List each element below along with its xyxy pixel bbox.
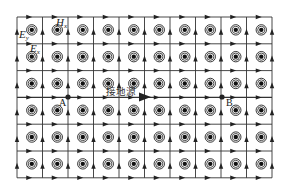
out-of-page-dot-icon xyxy=(205,159,215,169)
out-of-page-dot-icon xyxy=(154,25,164,35)
arrow-up-icon xyxy=(219,56,223,62)
arrow-up-icon xyxy=(168,29,172,35)
arrow-right-icon xyxy=(77,15,83,19)
out-of-page-dot-icon xyxy=(103,51,113,61)
arrow-up-icon xyxy=(244,82,248,88)
arrow-up-icon xyxy=(193,109,197,115)
out-of-page-dot-icon xyxy=(129,51,139,61)
out-of-page-dot-icon xyxy=(154,105,164,115)
out-of-page-dot-icon xyxy=(52,51,62,61)
out-of-page-dot-icon xyxy=(180,132,190,142)
out-of-page-dot-icon xyxy=(78,51,88,61)
arrow-up-icon xyxy=(15,136,19,142)
out-of-page-dot-icon xyxy=(205,78,215,88)
arrow-up-icon xyxy=(91,29,95,35)
arrow-right-icon xyxy=(26,15,32,19)
arrow-up-icon xyxy=(91,56,95,62)
out-of-page-dot-icon xyxy=(27,105,37,115)
out-of-page-dot-icon xyxy=(78,25,88,35)
arrow-right-icon xyxy=(128,149,134,153)
out-of-page-dot-icon xyxy=(154,78,164,88)
arrow-right-icon xyxy=(26,122,32,126)
arrow-up-icon xyxy=(40,109,44,115)
arrow-up-icon xyxy=(219,82,223,88)
out-of-page-dot-icon xyxy=(103,105,113,115)
arrow-right-icon xyxy=(77,149,83,153)
arrow-right-icon xyxy=(256,15,262,19)
arrow-up-icon xyxy=(142,82,146,88)
arrow-right-icon xyxy=(128,42,134,46)
arrow-up-icon xyxy=(117,136,121,142)
arrow-up-icon xyxy=(270,109,274,115)
arrow-right-icon xyxy=(230,68,236,72)
arrow-right-icon xyxy=(103,15,109,19)
label-point-b: B xyxy=(226,97,233,108)
arrow-up-icon xyxy=(219,163,223,169)
arrow-up-icon xyxy=(270,56,274,62)
arrow-up-icon xyxy=(193,163,197,169)
arrow-right-icon xyxy=(179,15,185,19)
arrow-right-icon xyxy=(205,42,211,46)
arrow-up-icon xyxy=(15,163,19,169)
arrow-up-icon xyxy=(270,136,274,142)
arrow-up-icon xyxy=(244,163,248,169)
out-of-page-dot-icon xyxy=(129,25,139,35)
out-of-page-dot-icon xyxy=(129,132,139,142)
arrow-right-icon xyxy=(230,122,236,126)
arrow-right-icon xyxy=(205,95,211,99)
out-of-page-dot-icon xyxy=(27,159,37,169)
arrow-right-icon xyxy=(77,68,83,72)
arrow-right-icon xyxy=(256,149,262,153)
arrow-right-icon xyxy=(256,176,262,180)
arrow-right-icon xyxy=(154,122,160,126)
out-of-page-dot-icon xyxy=(154,159,164,169)
arrow-right-icon xyxy=(77,42,83,46)
arrow-right-icon xyxy=(179,95,185,99)
out-of-page-dot-icon xyxy=(129,105,139,115)
arrow-up-icon xyxy=(15,109,19,115)
arrow-right-icon xyxy=(205,68,211,72)
arrow-right-icon xyxy=(52,42,58,46)
out-of-page-dot-icon xyxy=(205,51,215,61)
arrow-right-icon xyxy=(179,42,185,46)
arrow-up-icon xyxy=(66,163,70,169)
arrow-right-icon xyxy=(179,149,185,153)
arrow-up-icon xyxy=(91,109,95,115)
out-of-page-dot-icon xyxy=(256,78,266,88)
out-of-page-dot-icon xyxy=(231,25,241,35)
arrow-up-icon xyxy=(40,82,44,88)
out-of-page-dot-icon xyxy=(205,25,215,35)
arrow-right-icon xyxy=(77,95,83,99)
arrow-up-icon xyxy=(66,136,70,142)
arrow-up-icon xyxy=(91,163,95,169)
out-of-page-dot-icon xyxy=(129,159,139,169)
arrow-right-icon xyxy=(205,176,211,180)
out-of-page-dot-icon xyxy=(52,132,62,142)
arrow-up-icon xyxy=(66,56,70,62)
arrow-up-icon xyxy=(40,29,44,35)
arrow-up-icon xyxy=(244,56,248,62)
ab-arrow-icon xyxy=(139,93,151,102)
arrow-right-icon xyxy=(52,176,58,180)
arrow-right-icon xyxy=(52,122,58,126)
arrow-right-icon xyxy=(103,68,109,72)
out-of-page-dot-icon xyxy=(103,132,113,142)
arrow-up-icon xyxy=(117,56,121,62)
arrow-up-icon xyxy=(244,29,248,35)
out-of-page-dot-icon xyxy=(256,132,266,142)
out-of-page-dot-icon xyxy=(52,159,62,169)
out-of-page-dot-icon xyxy=(180,51,190,61)
arrow-up-icon xyxy=(244,136,248,142)
out-of-page-dot-icon xyxy=(256,159,266,169)
arrow-up-icon xyxy=(66,82,70,88)
arrow-right-icon xyxy=(154,42,160,46)
arrow-up-icon xyxy=(168,109,172,115)
arrow-right-icon xyxy=(256,122,262,126)
arrow-right-icon xyxy=(128,68,134,72)
out-of-page-dot-icon xyxy=(154,132,164,142)
arrow-right-icon xyxy=(103,122,109,126)
out-of-page-dot-icon xyxy=(78,105,88,115)
arrow-right-icon xyxy=(128,122,134,126)
arrow-right-icon xyxy=(256,68,262,72)
arrow-up-icon xyxy=(117,29,121,35)
